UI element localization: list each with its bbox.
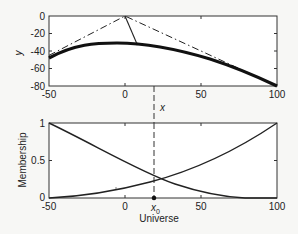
top-xtick-1: 0	[122, 89, 128, 100]
x-label: x	[159, 102, 166, 113]
top-ytick-0: 0	[39, 11, 45, 22]
top-ytick-3: -60	[31, 63, 46, 74]
bottom-xtick-1: 0	[122, 201, 128, 212]
x0-point	[152, 196, 157, 201]
top-plot: 0 -20 -40 -60 -80 -50 0 50 100 y	[13, 11, 286, 100]
top-xtick-2: 50	[195, 89, 207, 100]
bottom-ytick-05: 0.5	[31, 155, 45, 166]
figure: 0 -20 -40 -60 -80 -50 0 50 100 y x 1 0.5	[0, 0, 298, 234]
stray-dot	[115, 187, 116, 188]
bottom-xtick-2: 50	[195, 201, 207, 212]
bottom-ytick-1: 1	[39, 118, 45, 129]
bottom-plot-frame	[49, 123, 277, 198]
bottom-plot: 1 0.5 0 -50 0 50 100 Membership Universe…	[17, 118, 286, 224]
contact-point	[136, 43, 138, 45]
top-xtick-3: 100	[269, 89, 286, 100]
bottom-xtick-3: 100	[269, 201, 286, 212]
bottom-xtick-0: -50	[42, 201, 57, 212]
bottom-ylabel: Membership	[17, 132, 28, 187]
top-plot-frame	[49, 16, 277, 86]
top-xtick-0: -50	[42, 89, 57, 100]
top-ylabel: y	[13, 50, 24, 57]
top-ytick-1: -20	[31, 28, 46, 39]
top-ytick-2: -40	[31, 46, 46, 57]
